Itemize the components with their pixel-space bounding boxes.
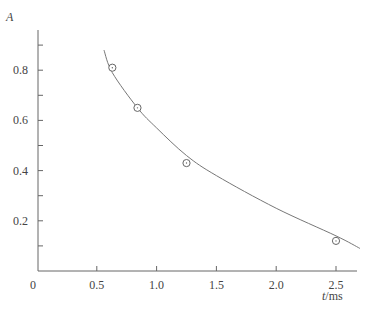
data-point — [183, 159, 190, 166]
data-point — [332, 237, 339, 244]
data-points — [109, 64, 340, 244]
y-tick-label: 0.6 — [13, 113, 28, 127]
ticks — [38, 45, 336, 271]
tick-labels: 0.51.01.52.02.50.20.40.60.8 — [13, 63, 344, 292]
y-tick-label: 0.2 — [13, 214, 28, 228]
x-axis-label: t/ms — [322, 289, 343, 303]
axes — [38, 30, 357, 271]
y-tick-label: 0.8 — [13, 63, 28, 77]
y-tick-label: 0.4 — [13, 164, 28, 178]
x-tick-label: 1.0 — [149, 278, 164, 292]
x-tick-label: 1.5 — [209, 278, 224, 292]
origin-label: 0 — [30, 278, 36, 292]
x-tick-label: 0.5 — [89, 278, 104, 292]
y-axis-label: A — [5, 10, 14, 24]
data-point — [109, 64, 116, 71]
chart: 0.51.01.52.02.50.20.40.60.8 A t/ms 0 — [0, 0, 373, 317]
x-tick-label: 2.0 — [269, 278, 284, 292]
fitted-curve — [104, 50, 360, 248]
data-point — [134, 104, 141, 111]
